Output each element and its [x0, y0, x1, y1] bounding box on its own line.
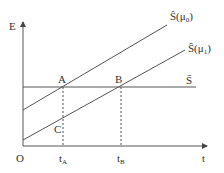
point-c-label: C [54, 123, 61, 135]
y-axis-label: E [9, 20, 16, 32]
s-hat-mu1-line [23, 50, 185, 140]
origin-label: O [16, 152, 24, 164]
diagram-canvas: E t O A B C tA tB Ŝ(μ0) Ŝ(μ1) S̄ [0, 0, 224, 173]
s-bar-label: S̄ [186, 74, 192, 86]
tick-tA-label: tA [59, 152, 67, 166]
s-hat-mu0-label: Ŝ(μ0) [170, 10, 193, 24]
s-hat-mu0-line [23, 25, 167, 110]
s-hat-mu1-label: Ŝ(μ1) [188, 42, 211, 56]
tick-tB-label: tB [117, 152, 125, 166]
x-axis-label: t [202, 152, 205, 164]
point-a-label: A [58, 73, 66, 85]
point-b-label: B [115, 73, 122, 85]
